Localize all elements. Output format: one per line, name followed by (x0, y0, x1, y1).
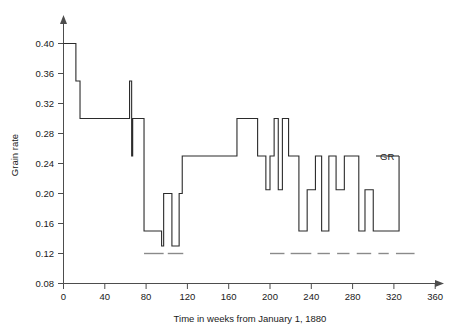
y-tick-label: 0.36 (36, 68, 55, 79)
x-tick-label: 200 (262, 291, 278, 302)
x-tick-group: 0 40 80 120 160 200 240 280 320 360 (61, 284, 443, 303)
x-tick-label: 80 (141, 291, 152, 302)
y-axis-title: Grain rate (9, 134, 20, 176)
x-tick-label: 240 (303, 291, 319, 302)
x-axis-arrowhead (435, 280, 444, 287)
grain-rate-line-chart: 0.40 0.36 0.32 0.28 0.24 0.20 0.16 0.12 … (0, 0, 454, 333)
y-tick-label: 0.40 (36, 38, 55, 49)
x-tick-label: 360 (427, 291, 443, 302)
x-tick-label: 280 (345, 291, 361, 302)
y-tick-label: 0.20 (36, 188, 55, 199)
y-tick-label: 0.24 (36, 158, 55, 169)
y-tick-label: 0.08 (36, 278, 55, 289)
x-tick-label: 320 (386, 291, 402, 302)
x-tick-label: 120 (179, 291, 195, 302)
x-axis-title: Time in weeks from January 1, 1880 (174, 313, 327, 324)
y-axis-arrowhead (60, 15, 67, 24)
x-tick-label: 0 (61, 291, 66, 302)
y-tick-label: 0.12 (36, 248, 55, 259)
y-tick-group: 0.40 0.36 0.32 0.28 0.24 0.20 0.16 0.12 … (36, 38, 64, 289)
y-tick-label: 0.16 (36, 218, 55, 229)
chart-container: 0.40 0.36 0.32 0.28 0.24 0.20 0.16 0.12 … (0, 0, 454, 333)
x-tick-label: 160 (221, 291, 237, 302)
series-line-gr (64, 44, 400, 247)
y-tick-label: 0.32 (36, 98, 55, 109)
x-tick-label: 40 (100, 291, 111, 302)
series-group (64, 44, 400, 247)
series-annotation-gr: GR (380, 151, 394, 162)
y-tick-label: 0.28 (36, 128, 55, 139)
